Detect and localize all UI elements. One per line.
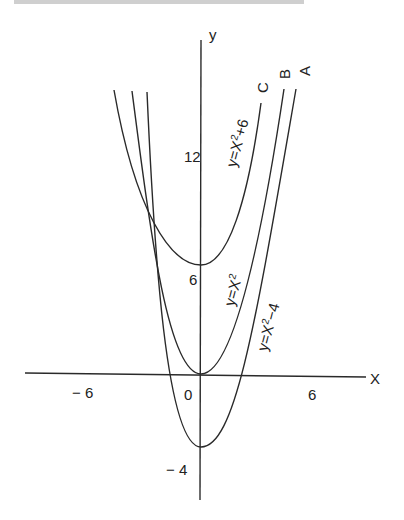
x-axis (25, 373, 366, 377)
y-axis-label: y (209, 26, 217, 43)
y-tick-neg4: − 4 (166, 461, 187, 478)
x-tick-neg6: − 6 (72, 384, 93, 401)
curve-c-label: C (254, 82, 271, 93)
equation-c: y=X2+6 (222, 117, 252, 169)
y-tick-12: 12 (184, 148, 201, 165)
x-tick-6: 6 (308, 386, 316, 403)
parabola-chart: y X − 6 0 6 12 6 − 4 C B A y=X2+6 y=X2 y… (0, 0, 404, 520)
y-axis (200, 40, 201, 500)
y-tick-6: 6 (189, 271, 197, 288)
x-axis-label: X (370, 370, 380, 387)
equation-b: y=X2 (220, 272, 246, 308)
x-tick-0: 0 (184, 386, 192, 403)
curve-a (147, 89, 296, 447)
curve-c (114, 90, 261, 265)
curve-a-label: A (296, 66, 313, 76)
curve-b-label: B (276, 69, 293, 79)
